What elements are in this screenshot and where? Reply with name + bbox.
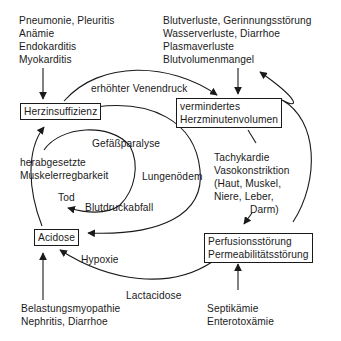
- node-line: Perfusionsstörung: [208, 235, 309, 248]
- label-blutdruckabfall: Blutdruckabfall: [85, 201, 153, 214]
- cause-text: Myokarditis: [19, 53, 114, 66]
- cause-text: Blutverluste, Gerinnungsstörung: [163, 14, 312, 27]
- cause-text: Blutvolumenmangel: [163, 53, 312, 66]
- label-line: (Haut, Muskel,: [214, 177, 290, 190]
- label-tod: Tod: [58, 191, 75, 204]
- cause-text: Belastungsmyopathie: [21, 302, 120, 315]
- node-perfusionsstoerung: Perfusionsstörung Permeabilitätsstörung: [204, 233, 313, 263]
- cause-text: Anämie: [19, 27, 114, 40]
- cause-text: Wasserverluste, Diarrhoe: [163, 27, 312, 40]
- label-lactacidose: Lactacidose: [126, 289, 181, 302]
- causes-top-right: Blutverluste, Gerinnungsstörung Wasserve…: [163, 14, 312, 66]
- label-line: herabgesetzte: [20, 156, 108, 169]
- label-line: Darm): [214, 203, 290, 216]
- label-venendruck: erhöhter Venendruck: [91, 82, 187, 95]
- causes-bottom-left: Belastungsmyopathie Nephritis, Diarrhoe: [21, 302, 120, 328]
- causes-bottom-right: Septikämie Enterotoxämie: [207, 302, 274, 328]
- label-line: Niere, Leber,: [214, 190, 290, 203]
- node-line: vermindertes: [180, 100, 278, 113]
- label-lungenoedem: Lungenödem: [142, 170, 202, 183]
- line-hmv-to-tachykardie: [248, 130, 256, 143]
- node-line: Permeabilitätsstörung: [208, 248, 309, 261]
- causes-top-left: Pneumonie, Pleuritis Anämie Endokarditis…: [19, 14, 114, 66]
- cause-text: Pneumonie, Pleuritis: [19, 14, 114, 27]
- node-herzminutenvolumen: vermindertes Herzminutenvolumen: [176, 98, 282, 128]
- diagram-canvas: Pneumonie, Pleuritis Anämie Endokarditis…: [0, 0, 341, 341]
- label-hypoxie: Hypoxie: [81, 253, 119, 266]
- label-gefaessparalyse: Gefäßparalyse: [92, 137, 160, 150]
- label-line: Muskelerregbarkeit: [20, 169, 108, 182]
- node-herzinsuffizienz: Herzinsuffizienz: [20, 103, 101, 120]
- cause-text: Plasmaverluste: [163, 40, 312, 53]
- cause-text: Nephritis, Diarrhoe: [21, 315, 120, 328]
- label-muskelerregbarkeit: herabgesetzte Muskelerregbarkeit: [20, 156, 108, 182]
- cause-text: Septikämie: [207, 302, 274, 315]
- node-line: Herzminutenvolumen: [180, 113, 278, 126]
- label-tachykardie-vasokonstriktion: Tachykardie Vasokonstriktion (Haut, Musk…: [214, 151, 290, 216]
- label-line: Vasokonstriktion: [214, 164, 290, 177]
- cause-text: Enterotoxämie: [207, 315, 274, 328]
- node-acidose: Acidose: [34, 229, 79, 246]
- label-line: Tachykardie: [214, 151, 290, 164]
- cause-text: Endokarditis: [19, 40, 114, 53]
